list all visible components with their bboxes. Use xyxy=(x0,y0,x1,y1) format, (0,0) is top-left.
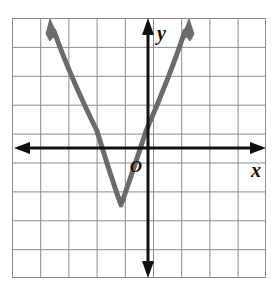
origin-label: O xyxy=(130,157,142,176)
x-axis-label: x xyxy=(250,159,261,181)
graph-canvas: y x O xyxy=(0,0,279,290)
parabola-figure: y x O xyxy=(0,0,279,290)
y-axis-label: y xyxy=(155,22,166,45)
